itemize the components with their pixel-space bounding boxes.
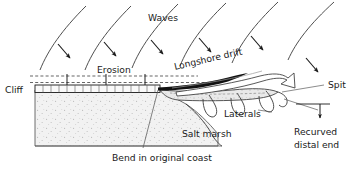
coastal-spit-diagram: Waves Erosion Cliff Bend in original coa… (0, 0, 363, 172)
recurved-distal-end-label-line1: Recurved (294, 126, 337, 137)
bend-in-original-coast-label: Bend in original coast (112, 152, 212, 163)
recurved-distal-end-label-line2: distal end (294, 139, 339, 150)
waves-label: Waves (148, 12, 178, 23)
diagram-canvas: Waves Erosion Cliff Bend in original coa… (0, 0, 363, 172)
cliff-band (35, 85, 160, 93)
cliff-band-rect (35, 85, 160, 93)
laterals-label: Laterals (224, 108, 261, 119)
salt-marsh-label: Salt marsh (182, 128, 232, 139)
cliff-label: Cliff (5, 84, 24, 95)
spit-label: Spit (328, 79, 346, 90)
erosion-label: Erosion (97, 64, 131, 75)
